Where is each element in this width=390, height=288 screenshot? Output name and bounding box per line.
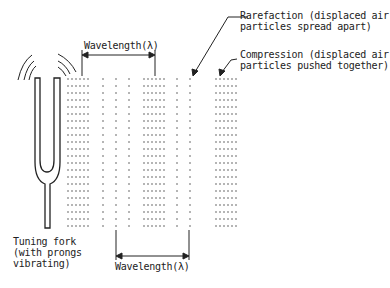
rarefaction-label: Rarefaction (displaced air particles spr… — [240, 10, 389, 32]
tuning-fork-label: Tuning fork (with prongs vibrating) — [13, 236, 82, 269]
vibration-arcs-icon — [18, 54, 76, 80]
air-particles — [67, 78, 236, 226]
wavelength-bottom-label: Wavelength(λ) — [115, 261, 189, 272]
wavelength-bottom-marker — [116, 230, 189, 260]
compression-label: Compression (displaced air particles pus… — [240, 49, 389, 71]
wavelength-top-label: Wavelength(λ) — [84, 40, 158, 51]
wavelength-top-marker — [82, 50, 155, 76]
tuning-fork-icon — [35, 78, 60, 228]
